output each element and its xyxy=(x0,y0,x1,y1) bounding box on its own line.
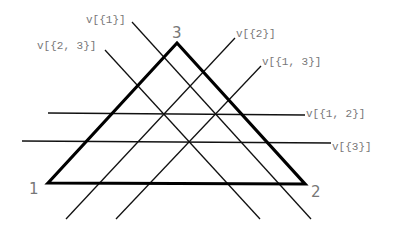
line-label-v23: v[{2, 3}] xyxy=(37,40,96,52)
line-label-v3: v[{3}] xyxy=(332,141,372,153)
line-label-v1: v[{1}] xyxy=(86,14,126,26)
line-v23 xyxy=(105,50,260,219)
diagram-canvas: 1 2 3 v[{1}] v[{2, 3}] v[{2}] v[{1, 3}] … xyxy=(0,0,397,236)
line-v2 xyxy=(66,38,235,219)
vertex-label-3: 3 xyxy=(172,24,182,42)
line-label-v12: v[{1, 2}] xyxy=(306,108,365,120)
line-label-v2: v[{2}] xyxy=(236,28,276,40)
vertex-label-1: 1 xyxy=(29,180,39,198)
line-v12 xyxy=(48,113,305,115)
vertex-label-2: 2 xyxy=(311,183,321,201)
line-label-v13: v[{1, 3}] xyxy=(262,56,321,68)
diagram-svg: 1 2 3 v[{1}] v[{2, 3}] v[{2}] v[{1, 3}] … xyxy=(0,0,397,236)
line-v3 xyxy=(22,141,331,143)
